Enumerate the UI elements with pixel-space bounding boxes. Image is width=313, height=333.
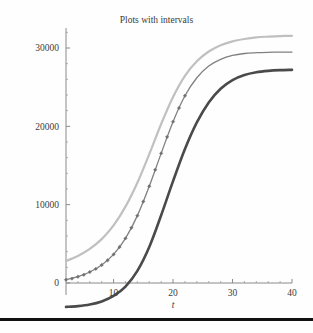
- bottom-horizontal-rule: [0, 318, 313, 321]
- x-tick-label: 10: [109, 288, 119, 298]
- x-tick-label: 20: [168, 288, 178, 298]
- series-curve-0: [66, 36, 292, 261]
- chart-title: Plots with intervals: [120, 15, 193, 25]
- y-tick-label: 10000: [35, 200, 59, 210]
- chart-canvas: 010000200003000010203040t: [0, 0, 313, 313]
- data-point-marker: [154, 168, 157, 171]
- y-tick-label: 0: [54, 278, 59, 288]
- data-point-marker: [159, 152, 162, 155]
- x-tick-label: 40: [287, 288, 297, 298]
- plot-figure: 010000200003000010203040t Plots with int…: [0, 0, 313, 313]
- data-point-marker: [142, 200, 145, 203]
- y-tick-label: 20000: [35, 122, 59, 132]
- x-axis-title: t: [172, 300, 175, 310]
- chart-screenshot: 010000200003000010203040t Plots with int…: [0, 0, 313, 333]
- x-tick-label: 30: [228, 288, 238, 298]
- data-point-marker: [76, 275, 79, 278]
- y-tick-label: 30000: [35, 43, 59, 53]
- data-point-marker: [64, 278, 67, 281]
- data-point-marker: [148, 185, 151, 188]
- chart-title-container: Plots with intervals: [0, 9, 313, 27]
- series-curve-2: [66, 70, 292, 307]
